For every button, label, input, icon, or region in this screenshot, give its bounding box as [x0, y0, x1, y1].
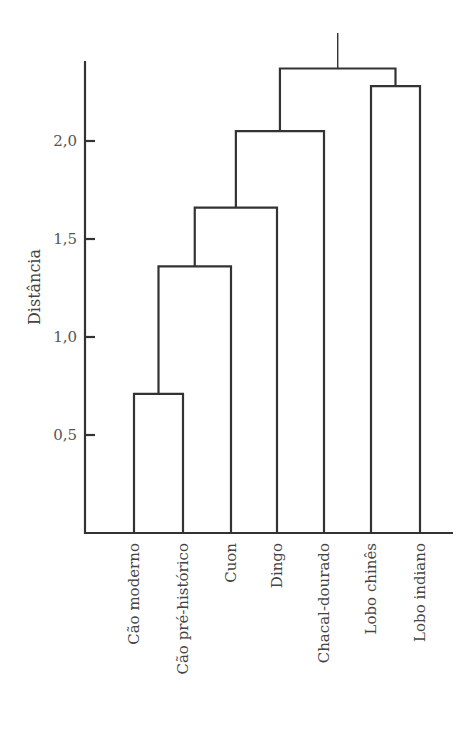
- merge-root: [280, 68, 396, 131]
- dendrogram-branches: [134, 33, 420, 533]
- y-tick-label: 1,0: [53, 328, 77, 346]
- y-tick-label: 0,5: [53, 426, 77, 444]
- leaf-label: Dingo: [268, 543, 286, 588]
- y-tick-label: 1,5: [53, 230, 77, 248]
- merge-n5: [371, 86, 420, 533]
- leaf-labels: Cão modernoCão pré-históricoCuonDingoCha…: [125, 543, 429, 675]
- leaf-label: Cuon: [222, 543, 240, 583]
- leaf-label: Cão moderno: [125, 543, 143, 645]
- y-tick-label: 2,0: [53, 132, 77, 150]
- dendrogram-chart: 0,51,01,52,0 Cão modernoCão pré-históric…: [0, 0, 473, 731]
- y-axis-title: Distância: [25, 249, 44, 326]
- leaf-label: Chacal-dourado: [315, 543, 333, 663]
- leaf-label: Lobo indiano: [411, 543, 429, 642]
- merge-n4: [236, 131, 324, 533]
- merge-n3: [195, 208, 277, 533]
- leaf-label: Cão pré-histórico: [174, 543, 192, 675]
- merge-n1: [134, 394, 183, 533]
- leaf-label: Lobo chinês: [362, 543, 380, 635]
- merge-n2: [159, 266, 232, 533]
